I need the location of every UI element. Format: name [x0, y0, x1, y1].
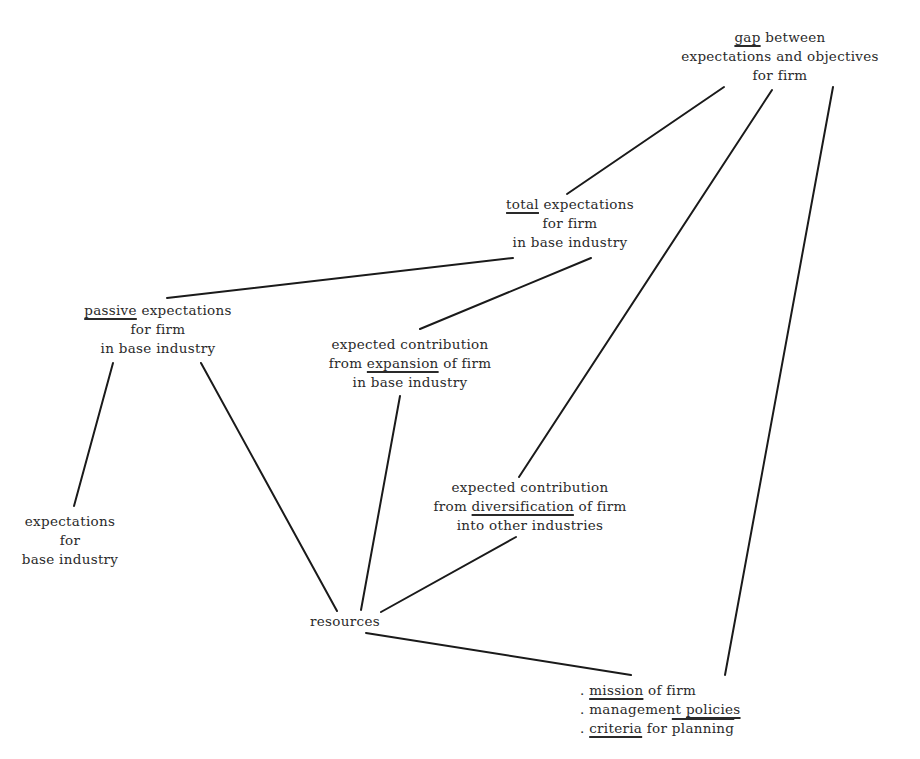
keyword-mission: mission: [589, 682, 643, 698]
list-item-policies: . management policies: [580, 700, 800, 719]
keyword-total: total: [506, 196, 539, 212]
edge-gap-diversification: [519, 90, 772, 477]
node-passive-expectations: passive expectations for firm in base in…: [58, 301, 258, 358]
keyword-expansion: expansion: [367, 355, 439, 371]
edge-passive-resources: [201, 363, 337, 611]
node-total-expectations: total expectations for firm in base indu…: [470, 195, 670, 252]
keyword-diversification: diversification: [472, 498, 574, 514]
edge-gap-total: [567, 87, 724, 194]
keyword-passive: passive: [84, 302, 137, 318]
edge-total-passive: [167, 258, 513, 298]
node-diversification-contribution: expected contribution from diversificati…: [400, 478, 660, 535]
list-item-mission: . mission of firm: [580, 681, 800, 700]
node-mission-policies-criteria: . mission of firm . management policies …: [580, 681, 800, 738]
node-expansion-contribution: expected contribution from expansion of …: [300, 335, 520, 392]
list-item-criteria: . criteria for planning: [580, 719, 800, 738]
edge-gap-mission: [725, 87, 833, 675]
keyword-policies: policies: [686, 701, 741, 717]
keyword-planning: planning: [672, 720, 734, 736]
node-resources: resources: [300, 612, 390, 631]
edge-passive-base-industry: [74, 363, 113, 506]
edge-expansion-resources: [361, 396, 400, 610]
node-base-industry-expectations: expectations for base industry: [0, 512, 140, 569]
edge-resources-mission: [366, 633, 631, 675]
keyword-gap: gap: [734, 29, 760, 45]
keyword-criteria: criteria: [589, 720, 642, 736]
edge-diversification-resources: [381, 537, 516, 612]
node-gap: gap between expectations and objectives …: [650, 28, 910, 85]
edge-total-expansion: [420, 258, 591, 329]
